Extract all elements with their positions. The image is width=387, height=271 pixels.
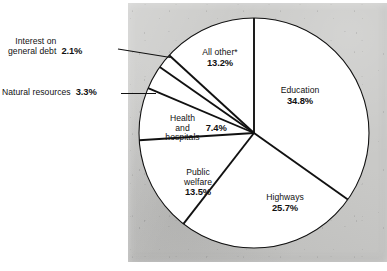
slice-label-highways-pct: 25.7% — [266, 203, 304, 214]
callout-label-natural-resources: Natural resources 3.3% — [2, 87, 97, 98]
slice-label-public-welfare-pct: 13.5% — [184, 187, 212, 198]
slice-label-all-other: All other* 13.2% — [202, 48, 237, 68]
slice-label-health-hospitals: Health and hospitals 7.4% — [165, 114, 226, 143]
pie-chart-figure: Education 34.8% Highways 25.7% Public we… — [0, 0, 387, 271]
slice-label-highways: Highways 25.7% — [266, 193, 304, 213]
slice-label-all-other-pct: 13.2% — [202, 58, 237, 69]
callout-label-interest-general-debt: Interest on general debt 2.1% — [8, 36, 82, 56]
callout-label-interest-general-debt-pct: 2.1% — [61, 46, 82, 57]
slice-label-health-hospitals-pct: 7.4% — [206, 123, 227, 134]
slice-label-public-welfare-name: Public welfare — [184, 168, 212, 187]
callout-label-natural-resources-name: Natural resources — [2, 87, 71, 97]
slice-label-education: Education 34.8% — [281, 86, 320, 106]
leader-line-interest-general-debt — [118, 49, 171, 58]
callout-label-interest-general-debt-name: Interest on general debt — [8, 36, 56, 56]
callout-label-natural-resources-pct: 3.3% — [76, 87, 97, 98]
slice-label-education-pct: 34.8% — [281, 96, 320, 107]
slice-label-public-welfare: Public welfare 13.5% — [184, 168, 212, 198]
slice-label-health-hospitals-name: Health and hospitals — [165, 114, 199, 143]
